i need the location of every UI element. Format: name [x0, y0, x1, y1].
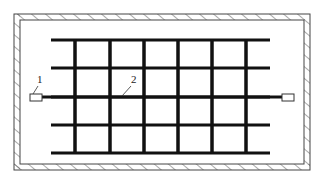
wall-segment: [14, 14, 20, 170]
label-2: 2: [131, 73, 137, 85]
label-1: 1: [37, 73, 43, 85]
grid-mesh: [40, 39, 284, 154]
left-sensor: [30, 94, 42, 101]
leader-line: [33, 86, 38, 94]
grid-diagram: 12: [0, 0, 320, 184]
wall-segment: [304, 14, 310, 170]
hatched-wall: [14, 14, 310, 170]
callout-labels: 12: [33, 73, 137, 96]
wall-segment: [14, 14, 310, 20]
right-sensor: [282, 94, 294, 101]
leader-line: [122, 86, 131, 96]
wall-segment: [14, 164, 310, 170]
diagram-canvas: 12: [0, 0, 320, 184]
